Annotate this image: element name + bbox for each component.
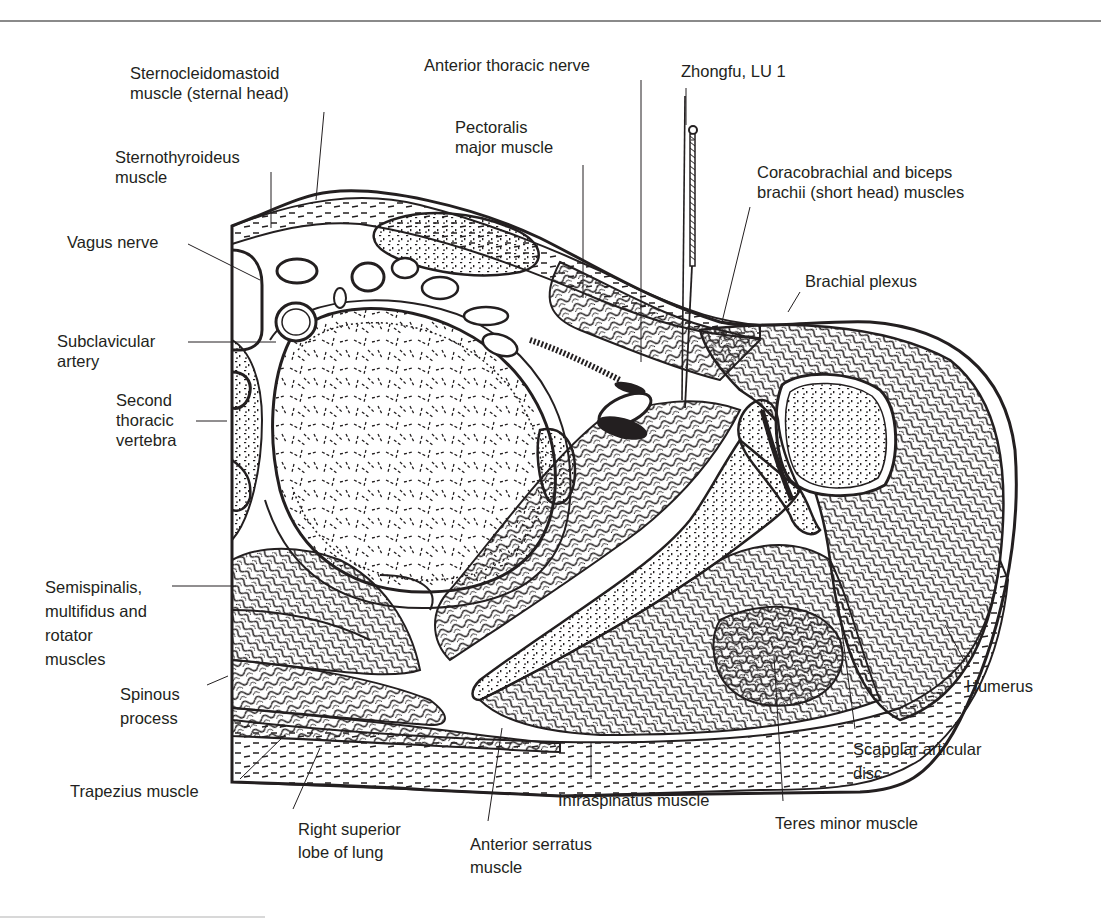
label-line: Sternothyroideus (115, 147, 240, 167)
label-line: Anterior thoracic nerve (424, 55, 590, 75)
label-line: artery (57, 351, 155, 371)
label-teres-minor: Teres minor muscle (775, 813, 918, 833)
label-line: Teres minor muscle (775, 813, 918, 833)
label-line: muscle (sternal head) (130, 83, 289, 103)
label-line: Brachial plexus (805, 271, 917, 291)
label-brachial-plexus: Brachial plexus (805, 271, 917, 291)
teres-minor (714, 607, 843, 706)
label-semispinalis: Semispinalis, multifidus and rotator mus… (45, 575, 147, 671)
label-line: Humerus (966, 676, 1033, 696)
label-vagus-nerve: Vagus nerve (67, 232, 158, 252)
label-line: multifidus and (45, 599, 147, 623)
label-infraspinatus: Infraspinatus muscle (558, 790, 709, 810)
label-sternothyroideus: Sternothyroideus muscle (115, 147, 240, 187)
label-scapular-articular-disc: Scapular articular disc (853, 737, 981, 785)
label-line: Sternocleidomastoid (130, 63, 289, 83)
label-line: Anterior serratus (470, 833, 592, 856)
label-line: rotator (45, 623, 147, 647)
bottom-rule (0, 916, 265, 918)
label-humerus: Humerus (966, 676, 1033, 696)
label-anterior-thoracic-nerve: Anterior thoracic nerve (424, 55, 590, 75)
label-line: Coracobrachial and biceps (757, 162, 964, 182)
label-line: muscle (115, 167, 240, 187)
label-line: Pectoralis (455, 117, 553, 137)
label-line: thoracic (116, 410, 177, 430)
label-sternocleidomastoid: Sternocleidomastoid muscle (sternal head… (130, 63, 289, 103)
label-line: brachii (short head) muscles (757, 182, 964, 202)
common-carotid (277, 259, 317, 283)
label-trapezius: Trapezius muscle (70, 781, 199, 801)
label-line: disc (853, 761, 981, 785)
label-zhongfu: Zhongfu, LU 1 (681, 61, 786, 81)
label-line: major muscle (455, 137, 553, 157)
label-line: Zhongfu, LU 1 (681, 61, 786, 81)
label-line: lobe of lung (298, 841, 401, 864)
label-line: muscle (470, 856, 592, 879)
label-anterior-serratus: Anterior serratus muscle (470, 833, 592, 879)
label-line: Vagus nerve (67, 232, 158, 252)
label-line: muscles (45, 647, 147, 671)
label-line: Infraspinatus muscle (558, 790, 709, 810)
label-line: Spinous (120, 682, 180, 706)
label-second-thoracic-vertebra: Second thoracic vertebra (116, 390, 177, 450)
label-line: Scapular articular (853, 737, 981, 761)
label-pectoralis-major: Pectoralis major muscle (455, 117, 553, 157)
label-line: Right superior (298, 818, 401, 841)
label-line: process (120, 706, 180, 730)
label-coracobrachial: Coracobrachial and biceps brachii (short… (757, 162, 964, 202)
label-line: Trapezius muscle (70, 781, 199, 801)
label-line: vertebra (116, 430, 177, 450)
label-line: Semispinalis, (45, 575, 147, 599)
label-spinous-process: Spinous process (120, 682, 180, 730)
label-line: Second (116, 390, 177, 410)
label-right-superior-lobe: Right superior lobe of lung (298, 818, 401, 864)
label-subclavicular-artery: Subclavicular artery (57, 331, 155, 371)
label-line: Subclavicular (57, 331, 155, 351)
